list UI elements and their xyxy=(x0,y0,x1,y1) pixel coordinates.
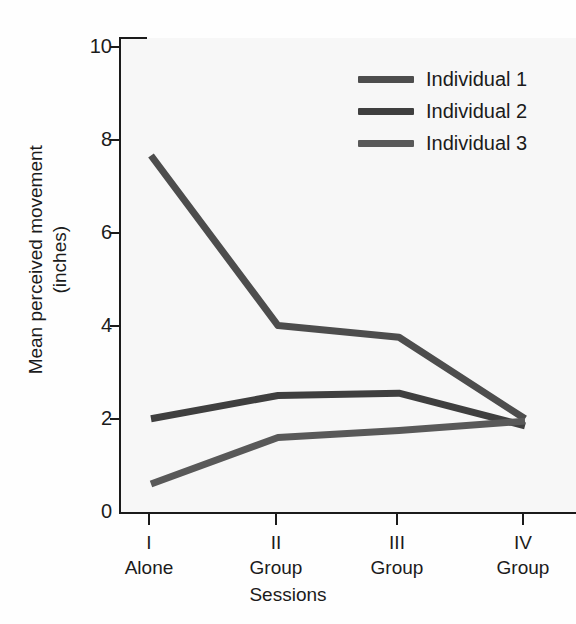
x-tick-condition-2: Group xyxy=(216,556,336,581)
y-tick-label-0: 0 xyxy=(78,500,112,523)
y-tick-mark-8 xyxy=(110,139,121,141)
x-tick-label-2: II Group xyxy=(216,531,336,580)
y-tick-label-4: 4 xyxy=(78,314,112,337)
x-tick-mark-3 xyxy=(396,513,398,525)
y-axis-title-line1: Mean perceived movement xyxy=(25,145,46,374)
x-tick-condition-3: Group xyxy=(337,556,457,581)
legend-item-individual-1: Individual 1 xyxy=(358,63,568,95)
legend-label-individual-1: Individual 1 xyxy=(426,68,527,91)
x-tick-roman-1: I xyxy=(89,531,209,556)
y-tick-label-6: 6 xyxy=(78,221,112,244)
x-axis-title: Sessions xyxy=(0,584,576,606)
legend-label-individual-2: Individual 2 xyxy=(426,100,527,123)
legend-swatch-individual-3 xyxy=(358,140,414,147)
legend-label-individual-3: Individual 3 xyxy=(426,132,527,155)
x-tick-roman-3: III xyxy=(337,531,457,556)
x-tick-condition-4: Group xyxy=(463,556,576,581)
y-tick-mark-2 xyxy=(110,418,121,420)
series-line-3 xyxy=(151,421,525,484)
y-tick-mark-4 xyxy=(110,325,121,327)
chart-figure: Mean perceived movement (inches) 0 2 4 6… xyxy=(0,0,576,624)
y-tick-mark-10 xyxy=(110,46,121,48)
y-tick-label-2: 2 xyxy=(78,407,112,430)
x-tick-label-1: I Alone xyxy=(89,531,209,580)
series-line-2 xyxy=(151,393,525,426)
x-tick-mark-1 xyxy=(148,513,150,525)
legend: Individual 1 Individual 2 Individual 3 xyxy=(358,63,568,159)
x-tick-label-3: III Group xyxy=(337,531,457,580)
x-tick-roman-4: IV xyxy=(463,531,576,556)
y-tick-mark-6 xyxy=(110,232,121,234)
y-tick-label-8: 8 xyxy=(78,128,112,151)
x-tick-label-4: IV Group xyxy=(463,531,576,580)
x-axis-line xyxy=(119,512,576,514)
legend-item-individual-3: Individual 3 xyxy=(358,127,568,159)
y-axis-title-line2: (inches) xyxy=(48,145,72,374)
legend-swatch-individual-2 xyxy=(358,108,414,115)
x-tick-mark-4 xyxy=(522,513,524,525)
series-line-1 xyxy=(151,156,525,419)
legend-swatch-individual-1 xyxy=(358,76,414,83)
x-tick-condition-1: Alone xyxy=(89,556,209,581)
y-tick-label-10: 10 xyxy=(78,35,112,58)
y-axis-top-cap xyxy=(119,37,147,39)
legend-item-individual-2: Individual 2 xyxy=(358,95,568,127)
x-tick-roman-2: II xyxy=(216,531,336,556)
x-tick-mark-2 xyxy=(275,513,277,525)
